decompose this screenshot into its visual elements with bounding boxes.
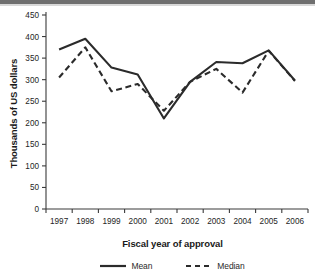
x-axis-title: Fiscal year of approval [40,238,305,249]
svg-text:50: 50 [30,183,40,192]
chart-figure: 0501001502002503003504004501997199819992… [0,0,315,280]
legend-swatch-median-icon [186,262,212,270]
legend-item-median: Median [186,261,244,271]
svg-text:1999: 1999 [102,217,121,226]
svg-text:2004: 2004 [233,217,252,226]
svg-text:0: 0 [34,205,39,214]
legend-label-median: Median [217,261,244,271]
line-chart-plot: 0501001502002503003504004501997199819992… [0,6,315,238]
svg-text:150: 150 [25,140,39,149]
svg-text:200: 200 [25,119,39,128]
svg-text:2006: 2006 [286,217,305,226]
svg-text:250: 250 [25,97,39,106]
legend-item-mean: Mean [100,261,152,271]
svg-text:2003: 2003 [207,217,226,226]
svg-text:1998: 1998 [76,217,95,226]
chart-legend: Mean Median [40,261,305,271]
series-line-mean [59,39,295,119]
svg-text:2005: 2005 [260,217,279,226]
svg-text:2000: 2000 [129,217,148,226]
svg-text:300: 300 [25,76,39,85]
y-axis-title: Thousands of US dollars [8,39,19,189]
svg-text:2002: 2002 [181,217,200,226]
legend-swatch-mean-icon [100,262,126,270]
legend-label-mean: Mean [131,261,152,271]
svg-text:350: 350 [25,54,39,63]
svg-text:1997: 1997 [50,217,69,226]
svg-text:450: 450 [25,11,39,20]
svg-text:2001: 2001 [155,217,174,226]
svg-text:400: 400 [25,33,39,42]
svg-text:100: 100 [25,162,39,171]
